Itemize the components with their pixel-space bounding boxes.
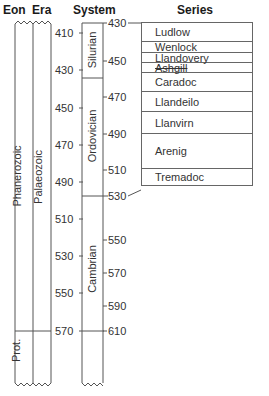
right-scale-450: 450 [108,55,126,67]
series-label: Llandeilo [155,96,199,108]
right-scale-570: 570 [108,267,126,279]
left-scale-490: 490 [55,176,73,188]
right-scale-610: 610 [108,325,126,337]
series-tremadoc: Tremadoc [141,169,253,186]
left-scale-410: 410 [55,27,73,39]
system-ordovician-label: Ordovician [86,101,98,171]
left-scale-430: 430 [55,64,73,76]
right-scale-490: 490 [108,128,126,140]
left-scale-530: 530 [55,250,73,262]
series-label: Caradoc [155,76,197,88]
left-scale-550: 550 [55,287,73,299]
right-scale-430: 430 [108,17,126,29]
series-llandeilo: Llandeilo [141,92,253,112]
system-silurian-label: Silurian [86,25,98,75]
right-scale-510: 510 [108,164,126,176]
left-scale-470: 470 [55,139,73,151]
series-label: Ashgill [155,62,187,74]
series-ashgill: Ashgill [141,63,253,73]
series-label: Tremadoc [155,171,204,183]
left-scale-450: 450 [55,102,73,114]
series-label: Llanvirn [155,117,194,129]
right-scale-590: 590 [108,300,126,312]
series-label: Arenig [155,145,187,157]
left-scale-510: 510 [55,213,73,225]
right-scale-530: 530 [108,190,126,202]
eon-proterozoic-label: Prot. [10,342,22,362]
eon-phanerozoic-label: Phanerozoic [11,141,23,211]
series-arenig: Arenig [141,134,253,169]
left-scale-570: 570 [55,325,73,337]
series-llanvirn: Llanvirn [141,112,253,134]
series-label: Ludlow [155,26,190,38]
era-palaeozoic-label: Palaeozoic [32,142,44,212]
right-scale-470: 470 [108,91,126,103]
system-cambrian-label: Cambrian [86,239,98,299]
series-caradoc: Caradoc [141,73,253,92]
right-scale-550: 550 [108,234,126,246]
series-ludlow: Ludlow [141,22,253,42]
